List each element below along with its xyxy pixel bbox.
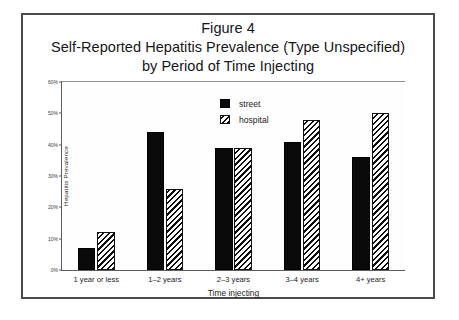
legend-item-street: street — [220, 98, 269, 109]
x-axis-tick: 2–3 years — [217, 275, 250, 284]
x-axis-tick: 1–2 years — [148, 275, 181, 284]
bar-hospital — [234, 148, 251, 270]
bar-hospital — [166, 189, 183, 270]
bar-street — [215, 148, 232, 270]
x-axis-tick: 4+ years — [356, 275, 385, 284]
legend-swatch-hospital-icon — [220, 115, 230, 124]
y-axis-tick: 0% — [51, 267, 62, 273]
legend-item-hospital: hospital — [220, 114, 269, 125]
bar-group — [268, 82, 337, 270]
figure-frame: Figure 4 Self-Reported Hepatitis Prevale… — [21, 13, 435, 299]
bar-group — [62, 82, 131, 270]
bar-group — [336, 82, 405, 270]
legend-label: street — [239, 99, 261, 109]
y-axis-tick: 40% — [48, 142, 62, 148]
y-axis-tick: 30% — [48, 173, 62, 179]
bar-hospital — [97, 232, 114, 270]
bar-street — [352, 157, 369, 270]
figure-caption-line-2: Self-Reported Hepatitis Prevalence (Type… — [23, 38, 433, 57]
bar-street — [78, 248, 95, 270]
bar-group — [131, 82, 200, 270]
bar-hospital — [372, 113, 389, 270]
x-axis-tick: 3–4 years — [285, 275, 318, 284]
legend-swatch-street-icon — [220, 99, 230, 108]
figure-caption-line-3: by Period of Time Injecting — [23, 57, 433, 76]
y-axis-tick: 60% — [48, 79, 62, 85]
bar-street — [284, 142, 301, 270]
x-axis-tick: 1 year or less — [74, 275, 120, 284]
chart-legend: streethospital — [220, 98, 269, 130]
y-axis-tick: 20% — [48, 204, 62, 210]
figure-caption-line-1: Figure 4 — [23, 19, 433, 38]
x-axis-title: Time injecting — [208, 288, 259, 298]
y-axis-tick: 10% — [48, 236, 62, 242]
legend-label: hospital — [239, 115, 269, 125]
y-axis-tick: 50% — [48, 110, 62, 116]
bar-street — [147, 132, 164, 270]
chart-plot-area: Hepatitis Prevalence 0%10%20%30%40%50%60… — [61, 81, 405, 271]
figure-caption: Figure 4 Self-Reported Hepatitis Prevale… — [23, 19, 433, 76]
bar-hospital — [303, 120, 320, 270]
